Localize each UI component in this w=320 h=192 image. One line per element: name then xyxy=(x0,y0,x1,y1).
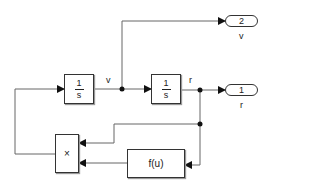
outport-2-name: v xyxy=(239,31,244,41)
product-symbol: × xyxy=(64,148,70,159)
outport-1-number: 1 xyxy=(239,85,244,95)
integrator2-denominator: s xyxy=(164,91,169,100)
fcn-block[interactable]: f(u) xyxy=(127,149,185,178)
junction-r-branch xyxy=(198,122,203,127)
outport-2[interactable]: 2 xyxy=(225,15,258,27)
outport-1[interactable]: 1 xyxy=(225,84,258,96)
integrator-block-2[interactable]: 1 s xyxy=(151,74,181,104)
integrator1-denominator: s xyxy=(77,91,82,100)
integrator-block-1[interactable]: 1 s xyxy=(64,74,94,104)
signal-label-v: v xyxy=(106,75,111,85)
junction-v xyxy=(120,87,125,92)
fcn-expression: f(u) xyxy=(149,158,164,169)
outport-2-number: 2 xyxy=(239,16,244,26)
product-block[interactable]: × xyxy=(55,134,79,173)
junction-r xyxy=(198,88,203,93)
signal-label-r: r xyxy=(189,75,192,85)
integrator1-numerator: 1 xyxy=(76,79,81,88)
outport-1-name: r xyxy=(240,100,243,110)
integrator2-numerator: 1 xyxy=(163,79,168,88)
